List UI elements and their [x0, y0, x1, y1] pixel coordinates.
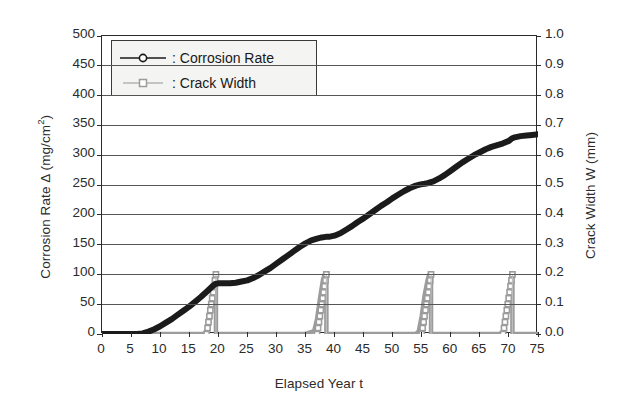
- tick-mark-left: [97, 214, 102, 215]
- y-axis-left-tick-label: 250: [55, 175, 95, 190]
- tick-mark-x: [247, 332, 248, 337]
- crack-width-marker: [317, 314, 322, 319]
- crack-width-marker: [208, 308, 213, 313]
- tick-mark-left: [97, 244, 102, 245]
- tick-mark-x: [479, 332, 480, 337]
- tick-mark-x: [421, 332, 422, 337]
- y-axis-left-tick-label: 400: [55, 86, 95, 101]
- tick-mark-x: [189, 332, 190, 337]
- tick-mark-left: [97, 185, 102, 186]
- crack-width-marker: [509, 278, 514, 283]
- crack-width-marker: [206, 319, 211, 324]
- legend-swatch-circle-icon: [118, 50, 168, 66]
- tick-mark-x: [538, 332, 539, 337]
- crack-width-marker: [421, 319, 426, 324]
- y-axis-left-tick-label: 0: [55, 324, 95, 339]
- crack-width-marker: [422, 314, 427, 319]
- y-axis-right-tick-label: 0.0: [545, 324, 579, 339]
- tick-mark-left: [97, 65, 102, 66]
- y-axis-left-tick-label: 300: [55, 145, 95, 160]
- y-axis-right-tick-label: 0.8: [545, 86, 579, 101]
- y-axis-left-title-main: Corrosion Rate Δ (mg/cm: [38, 125, 53, 279]
- y-axis-left-tick-label: 200: [55, 205, 95, 220]
- crack-width-marker: [205, 325, 210, 330]
- y-axis-right-tick-label: 0.5: [545, 175, 579, 190]
- crack-width-marker: [428, 278, 433, 283]
- crack-width-marker: [318, 308, 323, 313]
- gridline-horizontal: [102, 125, 536, 126]
- chart-figure: Corrosion Rate Δ (mg/cm2) Crack Width W …: [0, 0, 631, 413]
- tick-mark-x: [508, 332, 509, 337]
- crack-width-marker: [501, 331, 506, 334]
- crack-width-marker: [507, 290, 512, 295]
- tick-mark-x: [363, 332, 364, 337]
- gridline-horizontal: [102, 185, 536, 186]
- tick-mark-right: [536, 155, 541, 156]
- tick-mark-x: [392, 332, 393, 337]
- tick-mark-right: [536, 214, 541, 215]
- y-axis-left-tick-label: 450: [55, 56, 95, 71]
- crack-width-marker: [423, 308, 428, 313]
- crack-width-marker: [315, 325, 320, 330]
- y-axis-left-tick-label: 100: [55, 264, 95, 279]
- gridline-horizontal: [102, 274, 536, 275]
- crack-width-marker: [506, 296, 511, 301]
- legend-item-crack-width: : Crack Width: [118, 70, 310, 95]
- legend-swatch-square-icon: [118, 75, 168, 91]
- tick-mark-left: [97, 155, 102, 156]
- x-axis-ticks: 051015202530354045505560657075: [0, 341, 631, 365]
- crack-width-marker: [316, 319, 321, 324]
- tick-mark-left: [97, 95, 102, 96]
- tick-mark-right: [536, 36, 541, 37]
- crack-width-marker: [426, 290, 431, 295]
- chart-legend: : Corrosion Rate : Crack Width: [111, 40, 317, 96]
- y-axis-left-tick-label: 50: [55, 294, 95, 309]
- tick-mark-right: [536, 244, 541, 245]
- gridline-horizontal: [102, 65, 536, 66]
- y-axis-right-title: Crack Width W (mm): [583, 56, 598, 336]
- y-axis-right-tick-label: 0.6: [545, 145, 579, 160]
- tick-mark-x: [160, 332, 161, 337]
- tick-mark-x: [218, 332, 219, 337]
- y-axis-left-tick-label: 500: [55, 26, 95, 41]
- gridline-horizontal: [102, 214, 536, 215]
- legend-label-corrosion-rate: : Corrosion Rate: [172, 50, 274, 66]
- y-axis-left-tick-label: 150: [55, 235, 95, 250]
- tick-mark-left: [97, 36, 102, 37]
- x-axis-title: Elapsed Year t: [101, 376, 537, 391]
- x-axis-tick-label: 75: [517, 341, 557, 356]
- gridline-horizontal: [102, 95, 536, 96]
- legend-label-crack-width: : Crack Width: [172, 75, 256, 91]
- gridline-horizontal: [102, 244, 536, 245]
- y-axis-left-title: Corrosion Rate Δ (mg/cm2): [35, 57, 53, 337]
- tick-mark-x: [131, 332, 132, 337]
- tick-mark-right: [536, 125, 541, 126]
- y-axis-right-tick-label: 0.7: [545, 115, 579, 130]
- crack-width-marker: [210, 296, 215, 301]
- crack-width-marker: [320, 296, 325, 301]
- crack-width-marker: [207, 314, 212, 319]
- tick-mark-left: [97, 125, 102, 126]
- y-axis-right-tick-label: 0.4: [545, 205, 579, 220]
- gridline-horizontal: [102, 304, 536, 305]
- gridline-horizontal: [102, 155, 536, 156]
- crack-width-marker: [314, 331, 319, 334]
- y-axis-right-tick-label: 0.1: [545, 294, 579, 309]
- plot-area: : Corrosion Rate : Crack Width: [101, 35, 537, 333]
- crack-width-marker: [502, 319, 507, 324]
- tick-mark-x: [102, 332, 103, 337]
- y-axis-left-title-tail: ): [38, 115, 53, 120]
- tick-mark-left: [97, 304, 102, 305]
- crack-width-marker: [204, 331, 209, 334]
- tick-mark-right: [536, 304, 541, 305]
- y-axis-right-tick-label: 0.3: [545, 235, 579, 250]
- tick-mark-right: [536, 95, 541, 96]
- tick-mark-x: [450, 332, 451, 337]
- tick-mark-right: [536, 185, 541, 186]
- tick-mark-right: [536, 274, 541, 275]
- y-axis-right-tick-label: 0.9: [545, 56, 579, 71]
- tick-mark-x: [334, 332, 335, 337]
- tick-mark-x: [305, 332, 306, 337]
- crack-width-marker: [420, 325, 425, 330]
- y-axis-right-tick-label: 0.2: [545, 264, 579, 279]
